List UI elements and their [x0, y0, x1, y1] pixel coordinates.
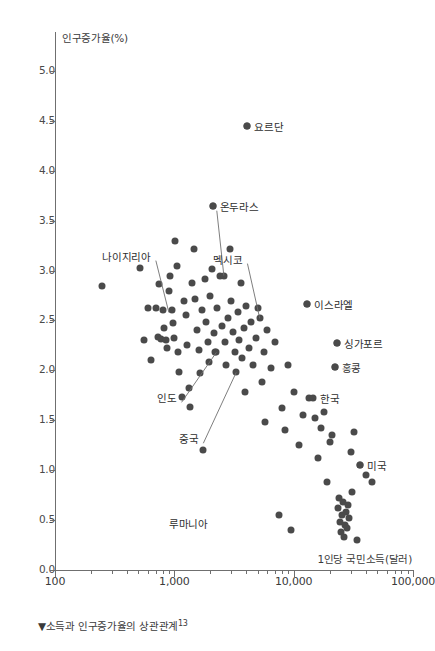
figure-caption: ▼소득과 인구증가율의 상관관계13: [38, 618, 188, 633]
y-axis-title: 인구증가율(%): [62, 30, 128, 45]
x-tick-mark-minor: [330, 570, 331, 574]
scatter-point: [268, 365, 275, 372]
scatter-point: [198, 307, 205, 314]
scatter-point: [279, 405, 286, 412]
x-tick-mark-minor: [288, 570, 289, 574]
annotated-point: [209, 202, 216, 209]
y-tick-mark: [50, 370, 55, 371]
scatter-point: [208, 265, 215, 272]
scatter-point: [334, 505, 341, 512]
x-tick-label: 1,000: [159, 575, 190, 588]
scatter-point: [172, 237, 179, 244]
scatter-point: [175, 349, 182, 356]
scatter-point: [236, 337, 243, 344]
scatter-point: [250, 362, 257, 369]
y-tick-label: 4.0: [21, 164, 55, 176]
scatter-point: [288, 527, 295, 534]
point-label: 중국: [179, 431, 198, 446]
y-tick-label: 2.5: [21, 313, 55, 325]
x-tick-mark-minor: [395, 570, 396, 574]
scatter-point: [197, 370, 204, 377]
scatter-point: [229, 329, 236, 336]
scatter-point: [344, 502, 351, 509]
y-tick-label: 4.5: [21, 114, 55, 126]
scatter-point: [240, 325, 247, 332]
y-tick-mark: [50, 470, 55, 471]
scatter-point: [245, 345, 252, 352]
caption-note: 13: [178, 619, 188, 628]
y-tick-mark: [50, 271, 55, 272]
annotated-point: [244, 122, 251, 129]
y-tick-label: 0.5: [21, 513, 55, 525]
scatter-point: [218, 323, 225, 330]
scatter-point: [200, 447, 207, 454]
point-label: 요르단: [254, 118, 283, 133]
scatter-point: [203, 319, 210, 326]
x-tick-mark-minor: [91, 570, 92, 574]
scatter-point: [190, 245, 197, 252]
y-tick-label: 1.0: [21, 463, 55, 475]
scatter-point: [309, 395, 316, 402]
scatter-point: [300, 412, 307, 419]
scatter-point: [341, 534, 348, 541]
annotated-point: [333, 340, 340, 347]
x-axis-line: [55, 570, 413, 571]
scatter-point: [323, 479, 330, 486]
x-tick-mark-minor: [401, 570, 402, 574]
scatter-point: [164, 345, 171, 352]
scatter-point: [275, 512, 282, 519]
scatter-point: [262, 419, 269, 426]
y-tick-label: 0.0: [21, 563, 55, 575]
scatter-point: [173, 262, 180, 269]
scatter-point: [214, 305, 221, 312]
scatter-point: [231, 349, 238, 356]
scatter-point: [311, 415, 318, 422]
x-tick-mark-minor: [282, 570, 283, 574]
scatter-point: [185, 385, 192, 392]
x-tick-mark-minor: [246, 570, 247, 574]
scatter-point: [264, 327, 271, 334]
scatter-point: [321, 409, 328, 416]
scatter-point: [162, 337, 169, 344]
scatter-point: [345, 515, 352, 522]
scatter-point: [171, 335, 178, 342]
annotated-point: [304, 300, 311, 307]
scatter-point: [178, 394, 185, 401]
scatter-point: [156, 280, 163, 287]
scatter-point: [295, 442, 302, 449]
scatter-point: [161, 325, 168, 332]
scatter-point: [224, 315, 231, 322]
x-tick-mark-minor: [127, 570, 128, 574]
scatter-point: [148, 357, 155, 364]
scatter-point: [182, 312, 189, 319]
x-tick-mark-minor: [210, 570, 211, 574]
scatter-point: [349, 489, 356, 496]
scatter-point: [204, 339, 211, 346]
x-tick-mark-minor: [169, 570, 170, 574]
scatter-point: [137, 264, 144, 271]
y-axis-line: [55, 32, 56, 570]
scatter-point: [237, 279, 244, 286]
y-tick-label: 5.0: [21, 64, 55, 76]
x-tick-mark-minor: [275, 570, 276, 574]
point-label: 인도: [157, 390, 176, 405]
y-tick-mark: [50, 171, 55, 172]
scatter-point: [192, 295, 199, 302]
scatter-point: [350, 429, 357, 436]
scatter-point: [213, 349, 220, 356]
point-label: 미국: [367, 458, 386, 473]
scatter-point: [165, 287, 172, 294]
y-tick-mark: [50, 320, 55, 321]
scatter-point: [167, 272, 174, 279]
y-tick-mark: [50, 121, 55, 122]
scatter-point: [315, 455, 322, 462]
scatter-point: [195, 347, 202, 354]
x-tick-mark-minor: [258, 570, 259, 574]
scatter-point: [228, 297, 235, 304]
x-tick-mark-minor: [377, 570, 378, 574]
scatter-point: [186, 404, 193, 411]
scatter-point: [347, 449, 354, 456]
annotated-point: [357, 462, 364, 469]
scatter-point: [170, 320, 177, 327]
scatter-point: [252, 335, 259, 342]
